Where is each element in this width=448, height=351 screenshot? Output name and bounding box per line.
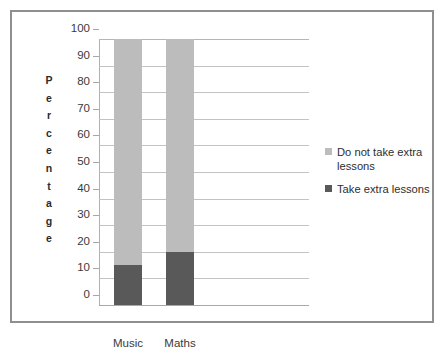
y-axis-title-letter: n [42, 160, 56, 178]
bar-segment-take-extra-lessons[interactable] [166, 252, 194, 305]
legend-label: Take extra lessons [337, 183, 430, 195]
y-axis-title-letter: e [42, 90, 56, 108]
y-axis-title-letter: e [42, 142, 56, 160]
legend-swatch-icon [325, 148, 332, 155]
y-tick-label: 80 [62, 76, 90, 87]
bar-segment-take-extra-lessons[interactable] [114, 265, 142, 305]
y-tick-label: 10 [62, 262, 90, 273]
legend-item-do-not-take-extra-lessons[interactable]: Do not take extra lessons [325, 145, 445, 173]
y-tick-label: 50 [62, 156, 90, 167]
plot-area: Music Maths [99, 39, 309, 305]
chart-legend: Do not take extra lessons Take extra les… [325, 145, 445, 205]
y-tick-label: 60 [62, 129, 90, 140]
y-tick-label: 40 [62, 183, 90, 194]
y-tick-label: 90 [62, 50, 90, 61]
bar-music[interactable] [114, 39, 142, 305]
y-tick-label: 100 [62, 23, 90, 34]
legend-label: Do not take extra lessons [337, 146, 422, 172]
bar-segment-do-not-take-extra-lessons[interactable] [166, 39, 194, 252]
y-axis-title-letter: r [42, 107, 56, 125]
legend-item-take-extra-lessons[interactable]: Take extra lessons [325, 182, 445, 196]
bar-segment-do-not-take-extra-lessons[interactable] [114, 39, 142, 265]
y-tick-label: 30 [62, 209, 90, 220]
y-tick-label: 20 [62, 236, 90, 247]
x-tick-label-maths: Maths [150, 337, 210, 349]
legend-swatch-icon [325, 185, 332, 192]
chart-frame: P e r c e n t a g e 100 90 80 70 60 50 4… [10, 10, 434, 323]
y-axis-tick-labels: 100 90 80 70 60 50 40 30 20 10 0 [60, 12, 90, 351]
y-tick-label: 70 [62, 103, 90, 114]
y-axis-title: P e r c e n t a g e [42, 72, 56, 248]
y-axis-title-letter: a [42, 195, 56, 213]
x-tick-label-music: Music [98, 337, 158, 349]
y-axis-title-letter: c [42, 125, 56, 143]
y-tick-label: 0 [62, 289, 90, 300]
bar-maths[interactable] [166, 39, 194, 305]
y-axis-title-letter: e [42, 230, 56, 248]
y-axis-title-letter: P [42, 72, 56, 90]
x-axis-line [99, 305, 309, 306]
y-axis-title-letter: g [42, 213, 56, 231]
y-axis-title-letter: t [42, 178, 56, 196]
